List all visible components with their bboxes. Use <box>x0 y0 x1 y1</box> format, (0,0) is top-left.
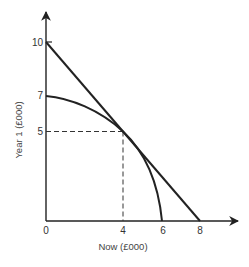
x-axis-label: Now (£000) <box>98 241 147 252</box>
x-tick-label-4: 4 <box>120 225 126 236</box>
x-tick-label-6: 6 <box>160 225 166 236</box>
chart: 10 7 5 0 4 6 8 Now (£000) Year 1 (£000) <box>0 0 249 267</box>
y-axis-label: Year 1 (£000) <box>13 101 24 158</box>
y-tick-label-7: 7 <box>37 90 43 101</box>
x-tick-label-8: 8 <box>197 225 203 236</box>
y-tick-label-5: 5 <box>37 126 43 137</box>
y-tick-label-10: 10 <box>32 37 44 48</box>
x-tick-label-0: 0 <box>43 225 49 236</box>
concave-curve-series <box>46 96 162 221</box>
